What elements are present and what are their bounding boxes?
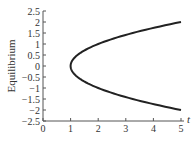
x-tick-label: 5	[179, 123, 184, 134]
y-tick-label: 1	[35, 39, 40, 50]
x-axis: 012345	[41, 118, 185, 134]
y-tick-label: −1	[29, 83, 40, 94]
x-axis-label: t	[187, 113, 191, 125]
y-tick-label: −2	[29, 105, 40, 116]
y-tick-label: 1.5	[28, 28, 41, 39]
plot-area	[71, 22, 181, 110]
chart: Equilibrium 2.521.510.50−0.5−1−1.5−2−2.5…	[0, 0, 196, 141]
y-tick-label: −2.5	[22, 116, 40, 127]
y-axis: 2.521.510.50−0.5−1−1.5−2−2.5	[22, 6, 46, 127]
x-tick-label: 4	[151, 123, 156, 134]
y-tick-label: 0	[35, 61, 40, 72]
x-tick-label: 0	[41, 123, 46, 134]
x-tick-label: 1	[68, 123, 73, 134]
y-axis-label: Equilibrium	[5, 39, 17, 93]
equilibrium-curve	[71, 22, 181, 110]
y-tick-label: 0.5	[28, 50, 41, 61]
svg-text:Equilibrium: Equilibrium	[5, 39, 17, 93]
y-tick-label: −1.5	[22, 94, 40, 105]
x-tick-label: 3	[123, 123, 128, 134]
y-tick-label: 2	[35, 17, 40, 28]
y-tick-label: 2.5	[28, 6, 41, 17]
x-tick-label: 2	[96, 123, 101, 134]
y-tick-label: −0.5	[22, 72, 40, 83]
